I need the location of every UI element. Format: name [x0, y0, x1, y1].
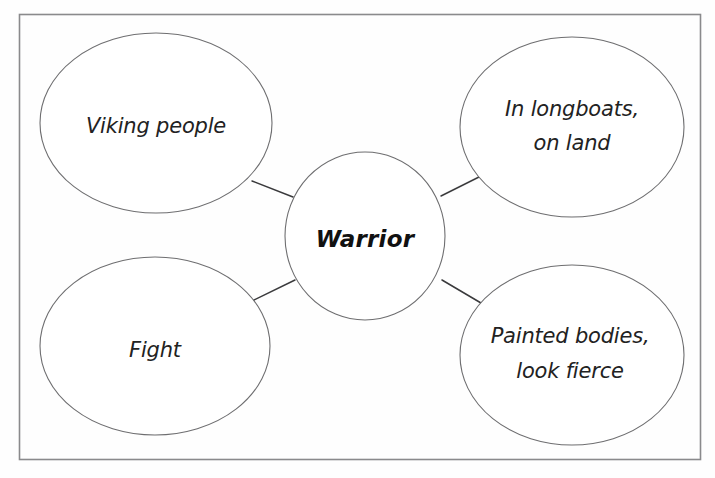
bubble-center[interactable]: Warrior	[285, 152, 445, 320]
bubble-top-left-label-line1: Viking people	[86, 114, 226, 138]
bubble-bottom-right-outline	[460, 265, 684, 445]
bubble-bottom-left-label-line1: Fight	[129, 338, 182, 362]
mind-map-canvas: Viking people In longboats, on land Warr…	[0, 0, 715, 478]
bubble-top-right-outline	[460, 37, 684, 217]
bubble-bottom-right[interactable]: Painted bodies, look fierce	[460, 265, 684, 445]
bubble-center-label: Warrior	[316, 226, 416, 252]
bubble-top-right-label-line2: on land	[534, 131, 612, 155]
bubble-bottom-right-label-line2: look fierce	[516, 359, 623, 383]
bubble-top-right-label-line1: In longboats,	[505, 97, 639, 121]
bubble-top-left[interactable]: Viking people	[40, 33, 272, 213]
connector-center-to-top-right	[441, 177, 479, 196]
connector-center-to-bottom-right	[442, 280, 481, 303]
bubble-top-right[interactable]: In longboats, on land	[460, 37, 684, 217]
bubble-bottom-left[interactable]: Fight	[40, 257, 270, 435]
connector-center-to-top-left	[252, 181, 293, 197]
bubble-bottom-right-label-line1: Painted bodies,	[491, 324, 650, 348]
mind-map-diagram: Viking people In longboats, on land Warr…	[0, 0, 715, 478]
connector-center-to-bottom-left	[252, 280, 295, 301]
